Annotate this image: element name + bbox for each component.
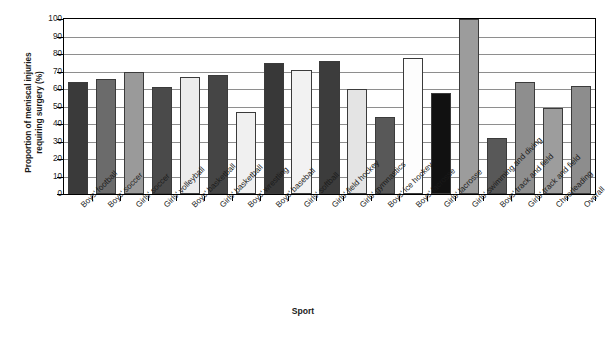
bar-slot bbox=[92, 19, 120, 194]
bar bbox=[68, 82, 88, 194]
bar-slot bbox=[120, 19, 148, 194]
bar-slot bbox=[64, 19, 92, 194]
chart-figure: Proportion of meniscal injuries requirin… bbox=[0, 0, 606, 339]
x-axis-title: Sport bbox=[0, 306, 606, 316]
bar-slot bbox=[316, 19, 344, 194]
bar-slot bbox=[148, 19, 176, 194]
